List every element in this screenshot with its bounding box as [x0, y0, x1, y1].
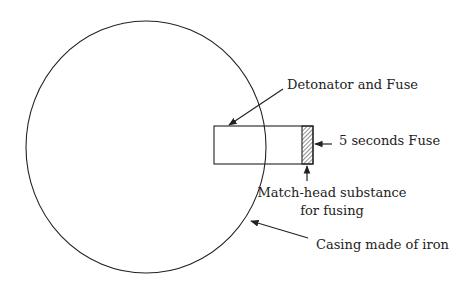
match-head-hatch — [302, 126, 313, 164]
match-head-label-line2: for fusing — [300, 203, 364, 218]
fuse-label: 5 seconds Fuse — [339, 133, 440, 148]
iron-casing-circle — [26, 21, 266, 273]
detonator-label: Detonator and Fuse — [287, 77, 418, 92]
bomb-diagram: Detonator and Fuse 5 seconds Fuse Match-… — [0, 0, 450, 290]
detonator-body — [214, 126, 313, 164]
match-head-label-line1: Match-head substance — [258, 185, 407, 200]
casing-arrow — [251, 221, 308, 238]
casing-label: Casing made of iron — [316, 237, 450, 252]
detonator-arrow — [229, 89, 283, 125]
